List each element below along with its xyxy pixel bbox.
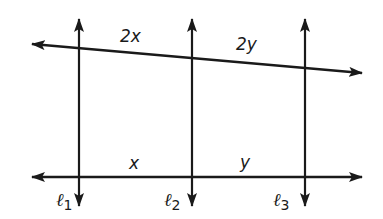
label-l1-script: ℓ [56,189,64,210]
label-l2-sub: 2 [172,197,181,213]
label-l1-sub: 1 [64,197,73,213]
label-l2: ℓ2 [164,191,180,212]
label-l3: ℓ3 [273,191,289,212]
label-2y: 2y [236,36,257,53]
label-y: y [240,154,250,171]
label-l3-sub: 3 [281,197,290,213]
label-2x: 2x [120,28,141,45]
label-l2-script: ℓ [164,189,172,210]
label-l3-script: ℓ [273,189,281,210]
diagram-canvas [0,0,383,219]
label-x: x [129,155,139,172]
label-l1: ℓ1 [56,191,72,212]
top-transversal-line [32,44,362,73]
